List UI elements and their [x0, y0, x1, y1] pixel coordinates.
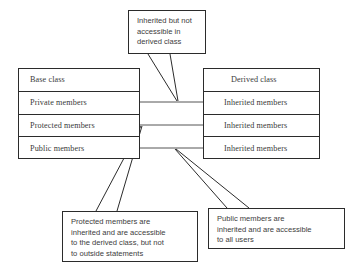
derived-class-row-inherited-3: Inherited members: [204, 137, 319, 160]
top-callout-leader-right: [170, 54, 178, 101]
public-members-callout: Public members are inherited and are acc…: [208, 208, 345, 249]
base-class-private-label: Private members: [19, 98, 87, 107]
callout-top-line-1: Inherited but not: [137, 16, 198, 27]
base-class-row-private: Private members: [19, 92, 139, 115]
inheritance-diagram: Base class Private members Protected mem…: [0, 0, 354, 272]
base-class-protected-label: Protected members: [19, 121, 95, 130]
callout-public-line-1: Public members are: [217, 214, 337, 225]
base-class-box: Base class Private members Protected mem…: [18, 68, 140, 159]
derived-class-inherited-label-2: Inherited members: [204, 121, 287, 130]
top-callout-leader-left: [148, 54, 177, 101]
protected-members-callout: Protected members are inherited and are …: [62, 211, 198, 262]
derived-class-inherited-label-3: Inherited members: [204, 144, 287, 153]
derived-class-header-row: Derived class: [204, 69, 319, 92]
inherited-not-accessible-callout: Inherited but not accessible in derived …: [128, 10, 206, 54]
base-class-public-label: Public members: [19, 144, 84, 153]
callout-public-line-2: inherited and are accessible: [217, 225, 337, 236]
derived-class-inherited-label-1: Inherited members: [204, 98, 287, 107]
base-class-row-protected: Protected members: [19, 115, 139, 138]
derived-class-row-inherited-1: Inherited members: [204, 92, 319, 115]
callout-protected-line-2: inherited and are accessible: [71, 228, 190, 239]
base-class-row-public: Public members: [19, 137, 139, 160]
callout-public-line-3: to all users: [217, 235, 337, 246]
base-class-header-row: Base class: [19, 69, 139, 92]
callout-protected-line-1: Protected members are: [71, 217, 190, 228]
derived-class-row-inherited-2: Inherited members: [204, 115, 319, 138]
callout-protected-line-3: to the derived class, but not: [71, 238, 190, 249]
derived-class-header-label: Derived class: [204, 75, 277, 84]
callout-protected-line-4: to outside statements: [71, 249, 190, 260]
derived-class-box: Derived class Inherited members Inherite…: [203, 68, 320, 159]
callout-top-line-2: accessible in: [137, 27, 198, 38]
callout-top-line-3: derived class: [137, 37, 198, 48]
base-class-header-label: Base class: [19, 75, 65, 84]
